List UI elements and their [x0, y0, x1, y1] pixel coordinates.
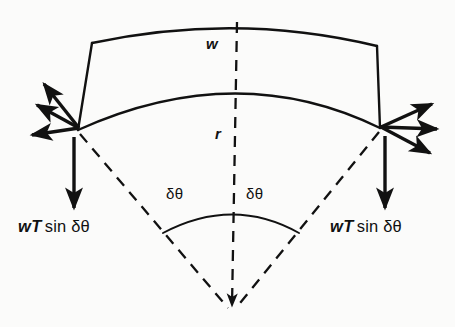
force-left-magnitude: wT — [18, 217, 42, 235]
band-left-edge — [78, 43, 92, 130]
band-inner-arc — [78, 93, 380, 130]
angle-label-left: δθ — [166, 186, 183, 201]
band-element — [78, 28, 380, 130]
right-tension-arrow-group — [381, 104, 437, 153]
angle-label-right: δθ — [246, 186, 263, 201]
force-left-function: sin — [42, 217, 67, 235]
angle-arc — [163, 215, 299, 234]
radius-label: r — [215, 126, 221, 141]
force-label-left: wTsin δθ — [18, 218, 90, 235]
diagram-canvas — [0, 0, 455, 327]
band-right-edge — [377, 46, 380, 128]
force-right-magnitude: wT — [330, 217, 354, 235]
right-tension-arrow-2 — [381, 127, 437, 129]
force-left-argument: δθ — [71, 217, 89, 235]
construction-lines — [80, 22, 379, 308]
left-tension-arrow-2 — [37, 105, 79, 128]
left-tension-arrow-3 — [32, 128, 79, 135]
force-right-function: sin — [354, 217, 379, 235]
left-radius-dashed-line — [80, 134, 228, 308]
band-width-label: w — [206, 36, 218, 51]
left-tension-arrow-group — [32, 84, 79, 135]
right-tension-arrow-3 — [381, 127, 430, 153]
force-label-right: wTsin δθ — [330, 218, 402, 235]
right-tension-arrow-1 — [381, 104, 432, 127]
left-tension-arrow-1 — [44, 84, 79, 128]
force-right-argument: δθ — [383, 217, 401, 235]
band-outer-arc — [92, 28, 377, 46]
figure-container: w r δθ δθ wTsin δθ wTsin δθ — [0, 0, 455, 327]
centre-radius-dashed-line — [232, 22, 237, 306]
